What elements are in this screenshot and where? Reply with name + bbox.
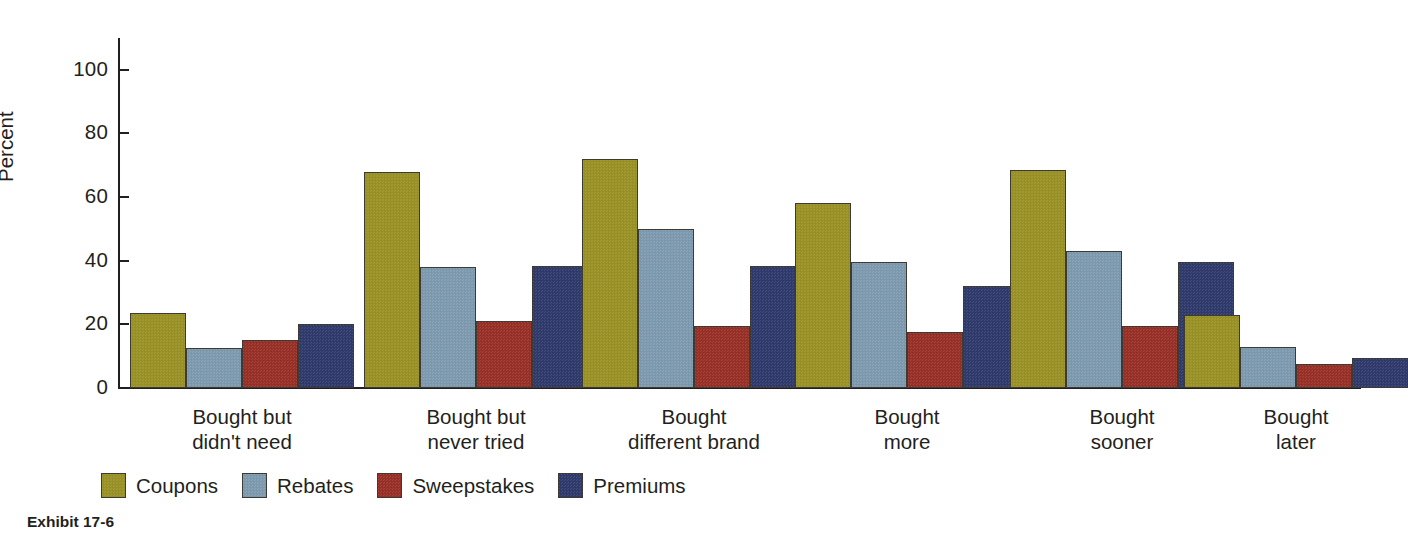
x-axis-category-label-line: didn't need (132, 429, 352, 454)
bar-coupons-group-5 (1010, 170, 1066, 388)
bar-sweepstakes-group-1 (242, 340, 298, 388)
legend-label: Sweepstakes (412, 474, 534, 498)
legend-swatch-rebates-icon (242, 473, 267, 498)
x-axis-category-label-line: later (1186, 429, 1406, 454)
bar-rebates-group-5 (1066, 251, 1122, 388)
bar-rebates-group-6 (1240, 347, 1296, 388)
bar-coupons-group-3 (582, 159, 638, 388)
bar-sweepstakes-group-4 (907, 332, 963, 388)
x-axis-category-label: Bought butdidn't need (132, 404, 352, 454)
legend-label: Rebates (277, 474, 353, 498)
bar-coupons-group-1 (130, 313, 186, 388)
x-axis-category-label-line: Bought but (132, 404, 352, 429)
x-axis-category-label-line: Bought but (366, 404, 586, 429)
legend-item-rebates[interactable]: Rebates (242, 473, 353, 498)
bar-coupons-group-6 (1184, 315, 1240, 388)
x-axis-category-label-line: never tried (366, 429, 586, 454)
x-axis-category-label-line: different brand (584, 429, 804, 454)
bar-rebates-group-3 (638, 229, 694, 388)
x-axis-category-label-line: more (797, 429, 1017, 454)
bar-coupons-group-4 (795, 203, 851, 388)
bar-rebates-group-2 (420, 267, 476, 388)
bar-sweepstakes-group-2 (476, 321, 532, 388)
x-axis-category-label: Boughtdifferent brand (584, 404, 804, 454)
legend-swatch-premiums-icon (558, 473, 583, 498)
bar-rebates-group-1 (186, 348, 242, 388)
x-axis-category-label: Boughtmore (797, 404, 1017, 454)
bar-sweepstakes-group-3 (694, 326, 750, 388)
legend-label: Premiums (593, 474, 685, 498)
bar-rebates-group-4 (851, 262, 907, 388)
legend-swatch-sweepstakes-icon (377, 473, 402, 498)
bar-sweepstakes-group-5 (1122, 326, 1178, 388)
bar-premiums-group-6 (1352, 358, 1408, 388)
x-axis-category-label: Boughtlater (1186, 404, 1406, 454)
legend-swatch-coupons-icon (101, 473, 126, 498)
exhibit-caption: Exhibit 17-6 (27, 513, 114, 531)
x-axis-category-label: Bought butnever tried (366, 404, 586, 454)
x-axis-category-label-line: Bought (584, 404, 804, 429)
bar-premiums-group-2 (532, 266, 588, 389)
bar-coupons-group-2 (364, 172, 420, 388)
x-axis-category-label-line: Bought (1186, 404, 1406, 429)
legend-item-sweepstakes[interactable]: Sweepstakes (377, 473, 534, 498)
legend-item-coupons[interactable]: Coupons (101, 473, 218, 498)
chart-legend: CouponsRebatesSweepstakesPremiums (101, 473, 710, 498)
bar-premiums-group-1 (298, 324, 354, 388)
bar-sweepstakes-group-6 (1296, 364, 1352, 388)
legend-label: Coupons (136, 474, 218, 498)
x-axis-category-label-line: Bought (797, 404, 1017, 429)
legend-item-premiums[interactable]: Premiums (558, 473, 685, 498)
